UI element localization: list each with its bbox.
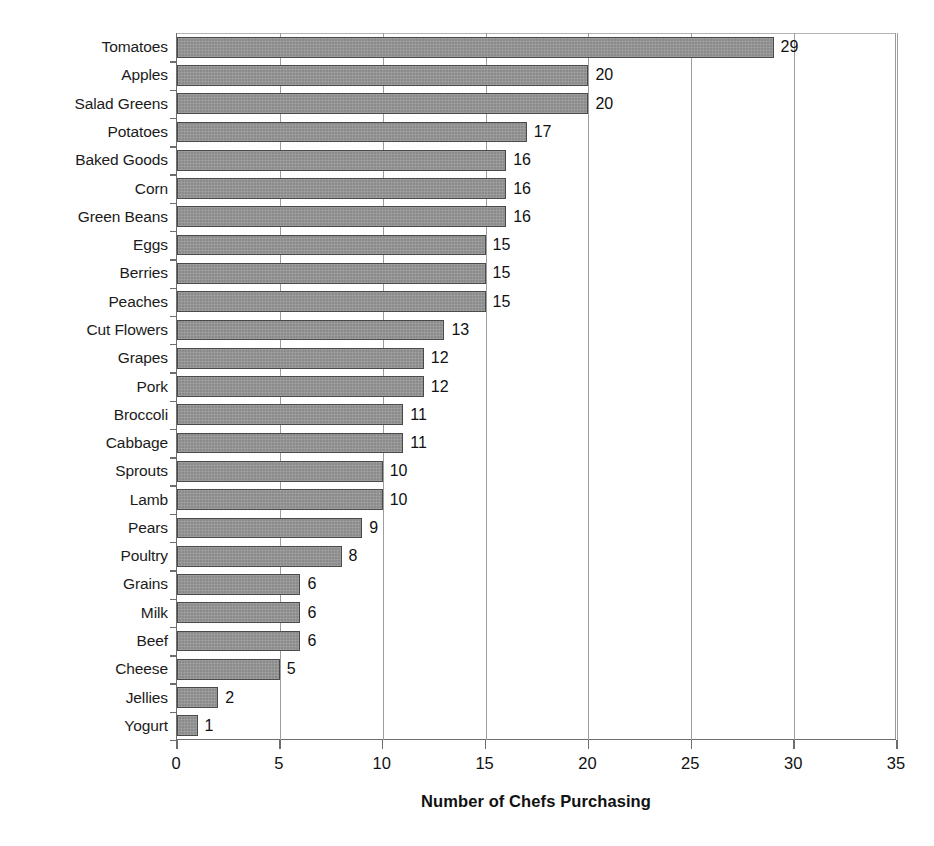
y-axis-tick: [170, 655, 177, 656]
x-axis-tick-label: 30: [784, 755, 802, 772]
category-label: Corn: [0, 181, 168, 197]
bar: [177, 178, 506, 199]
category-label: Cut Flowers: [0, 322, 168, 338]
x-axis-tick: [896, 740, 897, 749]
gridline: [794, 33, 795, 740]
bar-value-label: 13: [451, 322, 469, 338]
y-axis-tick: [170, 599, 177, 600]
x-axis-tick-label: 5: [274, 755, 283, 772]
bar-value-label: 6: [307, 605, 316, 621]
category-axis-labels: TomatoesApplesSalad GreensPotatoesBaked …: [0, 33, 168, 740]
bar-value-label: 2: [225, 690, 234, 706]
category-label: Salad Greens: [0, 96, 168, 112]
bar: [177, 574, 300, 595]
x-axis-tick: [691, 740, 692, 749]
category-label: Baked Goods: [0, 152, 168, 168]
bar: [177, 37, 774, 58]
x-axis-tick-label: 25: [681, 755, 699, 772]
bar-value-label: 11: [410, 407, 427, 423]
y-axis-tick: [170, 683, 177, 684]
bar: [177, 687, 218, 708]
y-axis-tick: [170, 316, 177, 317]
bar-value-label: 16: [513, 209, 531, 225]
x-axis-tick-label: 15: [475, 755, 493, 772]
bar: [177, 546, 342, 567]
category-label: Potatoes: [0, 124, 168, 140]
y-axis-tick: [170, 485, 177, 486]
x-axis-tick: [485, 740, 486, 749]
x-axis-tick: [382, 740, 383, 749]
bar: [177, 433, 403, 454]
y-axis-tick: [170, 401, 177, 402]
bar-value-label: 9: [369, 520, 378, 536]
category-label: Lamb: [0, 492, 168, 508]
y-axis-tick: [170, 542, 177, 543]
bar-value-label: 6: [307, 576, 316, 592]
category-label: Cheese: [0, 661, 168, 677]
x-axis-title: Number of Chefs Purchasing: [176, 792, 896, 811]
category-label: Grapes: [0, 350, 168, 366]
bar: [177, 376, 424, 397]
y-axis-tick: [170, 712, 177, 713]
category-label: Milk: [0, 605, 168, 621]
bar-value-label: 17: [534, 124, 552, 140]
bar: [177, 235, 486, 256]
bar-value-label: 11: [410, 435, 427, 451]
category-label: Pork: [0, 379, 168, 395]
bar-value-label: 15: [493, 294, 511, 310]
bar: [177, 631, 300, 652]
bar-value-label: 10: [390, 492, 408, 508]
bar: [177, 659, 280, 680]
x-axis-tick-label: 0: [171, 755, 180, 772]
bar: [177, 461, 383, 482]
y-axis-tick: [170, 627, 177, 628]
bar-value-label: 8: [349, 548, 358, 564]
bar-value-label: 29: [781, 39, 799, 55]
bar: [177, 150, 506, 171]
y-axis-tick: [170, 259, 177, 260]
category-label: Poultry: [0, 548, 168, 564]
category-label: Jellies: [0, 690, 168, 706]
plot-area: 2920201716161615151513121211111010986665…: [176, 33, 896, 740]
gridline: [588, 33, 589, 740]
bar-value-label: 12: [431, 379, 449, 395]
bar-value-label: 16: [513, 152, 531, 168]
y-axis-tick: [170, 146, 177, 147]
bar: [177, 489, 383, 510]
y-axis-tick: [170, 344, 177, 345]
bar: [177, 602, 300, 623]
category-label: Tomatoes: [0, 39, 168, 55]
bar-value-label: 15: [493, 237, 511, 253]
bar: [177, 206, 506, 227]
category-label: Cabbage: [0, 435, 168, 451]
bar: [177, 263, 486, 284]
x-axis-tick: [588, 740, 589, 749]
gridline: [897, 33, 898, 740]
bar-value-label: 20: [595, 96, 613, 112]
x-axis-tick-label: 10: [373, 755, 391, 772]
bar-value-label: 1: [205, 718, 214, 734]
bar-value-label: 12: [431, 350, 449, 366]
y-axis-tick: [170, 457, 177, 458]
y-axis-tick: [170, 203, 177, 204]
bar-value-label: 15: [493, 265, 511, 281]
y-axis-tick: [170, 514, 177, 515]
category-label: Yogurt: [0, 718, 168, 734]
category-label: Sprouts: [0, 463, 168, 479]
y-axis-tick: [170, 372, 177, 373]
category-label: Pears: [0, 520, 168, 536]
category-label: Peaches: [0, 294, 168, 310]
category-label: Apples: [0, 67, 168, 83]
category-label: Berries: [0, 265, 168, 281]
bar: [177, 518, 362, 539]
y-axis-tick: [170, 570, 177, 571]
y-axis-tick: [170, 740, 177, 741]
y-axis-tick: [170, 118, 177, 119]
bar-value-label: 16: [513, 181, 531, 197]
category-label: Beef: [0, 633, 168, 649]
y-axis-tick: [170, 174, 177, 175]
bar-chart: TomatoesApplesSalad GreensPotatoesBaked …: [0, 0, 934, 846]
y-axis-tick: [170, 61, 177, 62]
gridline: [691, 33, 692, 740]
y-axis-tick: [170, 90, 177, 91]
